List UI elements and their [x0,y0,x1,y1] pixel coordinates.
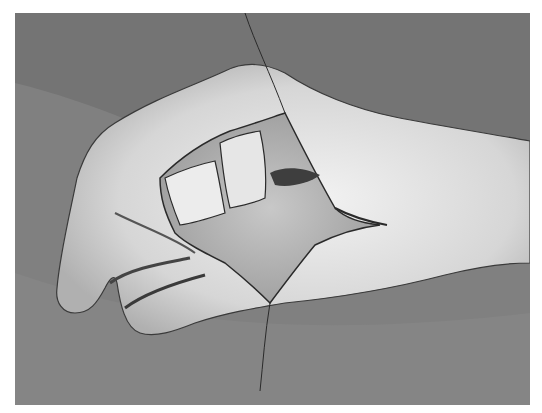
hand-illustration [15,13,530,405]
clinical-photo [15,13,530,405]
